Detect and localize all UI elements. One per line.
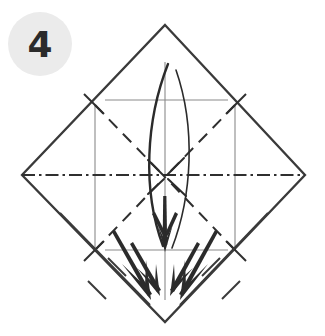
step-number-badge: 4 [8,12,72,76]
step-badge-number: 4 [27,24,52,65]
origami-diagram: 4 [0,0,325,336]
origami-figure: 4 [0,0,325,336]
